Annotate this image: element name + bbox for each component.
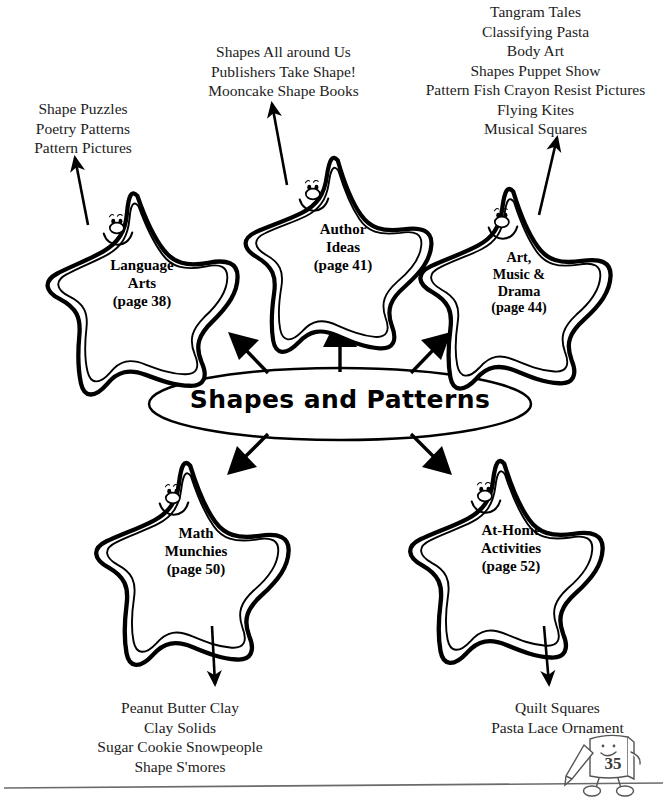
activity-item: Classifying Pasta bbox=[404, 22, 667, 42]
connector-author-ideas bbox=[272, 104, 287, 185]
activity-list-author-ideas: Shapes All around Us Publishers Take Sha… bbox=[176, 42, 391, 101]
star-caption-line: Art, bbox=[459, 249, 579, 266]
arrow-to-language-arts bbox=[228, 332, 268, 373]
activity-item: Mooncake Shape Books bbox=[176, 81, 391, 101]
star-caption-language-arts: Language Arts (page 38) bbox=[73, 256, 211, 310]
activity-item: Shape S'mores bbox=[55, 757, 305, 777]
footer-rule bbox=[4, 783, 663, 788]
star-caption-line: Language bbox=[73, 256, 211, 274]
star-caption-art-music-drama: Art, Music & Drama (page 44) bbox=[459, 249, 579, 316]
star-caption-line: Munchies bbox=[125, 542, 267, 560]
connector-art-music-drama bbox=[539, 138, 557, 215]
activity-list-language-arts: Shape Puzzles Poetry Patterns Pattern Pi… bbox=[0, 99, 166, 158]
star-caption-math-munchies: Math Munchies (page 50) bbox=[125, 524, 267, 578]
activity-item: Publishers Take Shape! bbox=[176, 62, 391, 82]
connector-language-arts bbox=[75, 158, 88, 225]
central-topic-label: Shapes and Patterns bbox=[175, 385, 505, 414]
star-caption-at-home-activities: At-Home Activities (page 52) bbox=[437, 521, 585, 575]
activity-item: Pasta Lace Ornament bbox=[450, 718, 665, 738]
star-caption-line: Music & bbox=[459, 266, 579, 283]
arrow-to-math-munchies bbox=[227, 434, 268, 475]
activity-list-math-munchies: Peanut Butter Clay Clay Solids Sugar Coo… bbox=[55, 698, 305, 776]
arrow-to-at-home-activities bbox=[411, 434, 452, 475]
activity-item: Body Art bbox=[404, 41, 667, 61]
activity-item: Flying Kites bbox=[404, 100, 667, 120]
activity-item: Pattern Fish Crayon Resist Pictures bbox=[404, 80, 667, 100]
activity-item: Tangram Tales bbox=[404, 2, 667, 22]
activity-item: Shapes All around Us bbox=[176, 42, 391, 62]
arrow-to-art-music-drama bbox=[411, 332, 451, 373]
activity-list-art-music-drama: Tangram Tales Classifying Pasta Body Art… bbox=[404, 2, 667, 139]
star-caption-line: Math bbox=[125, 524, 267, 542]
star-caption-line: Author bbox=[281, 220, 405, 238]
star-caption-author-ideas: Author Ideas (page 41) bbox=[281, 220, 405, 274]
activity-item: Musical Squares bbox=[404, 119, 667, 139]
activity-item: Pattern Pictures bbox=[0, 138, 166, 158]
worksheet-page: Shape Puzzles Poetry Patterns Pattern Pi… bbox=[0, 0, 667, 806]
star-caption-line: Ideas bbox=[281, 238, 405, 256]
activity-item: Poetry Patterns bbox=[0, 119, 166, 139]
activity-item: Clay Solids bbox=[55, 718, 305, 738]
activity-list-at-home-activities: Quilt Squares Pasta Lace Ornament bbox=[450, 698, 665, 737]
star-caption-page-ref: (page 52) bbox=[437, 557, 585, 575]
activity-item: Sugar Cookie Snowpeople bbox=[55, 737, 305, 757]
activity-item: Shape Puzzles bbox=[0, 99, 166, 119]
activity-item: Shapes Puppet Show bbox=[404, 61, 667, 81]
star-caption-line: Drama bbox=[459, 283, 579, 300]
star-caption-page-ref: (page 50) bbox=[125, 560, 267, 578]
activity-item: Peanut Butter Clay bbox=[55, 698, 305, 718]
star-caption-page-ref: (page 44) bbox=[459, 299, 579, 316]
star-caption-line: Activities bbox=[437, 539, 585, 557]
page-number-label: 35 bbox=[596, 754, 630, 774]
star-caption-line: Arts bbox=[73, 274, 211, 292]
star-caption-line: At-Home bbox=[437, 521, 585, 539]
activity-item: Quilt Squares bbox=[450, 698, 665, 718]
star-caption-page-ref: (page 41) bbox=[281, 256, 405, 274]
star-caption-page-ref: (page 38) bbox=[73, 292, 211, 310]
